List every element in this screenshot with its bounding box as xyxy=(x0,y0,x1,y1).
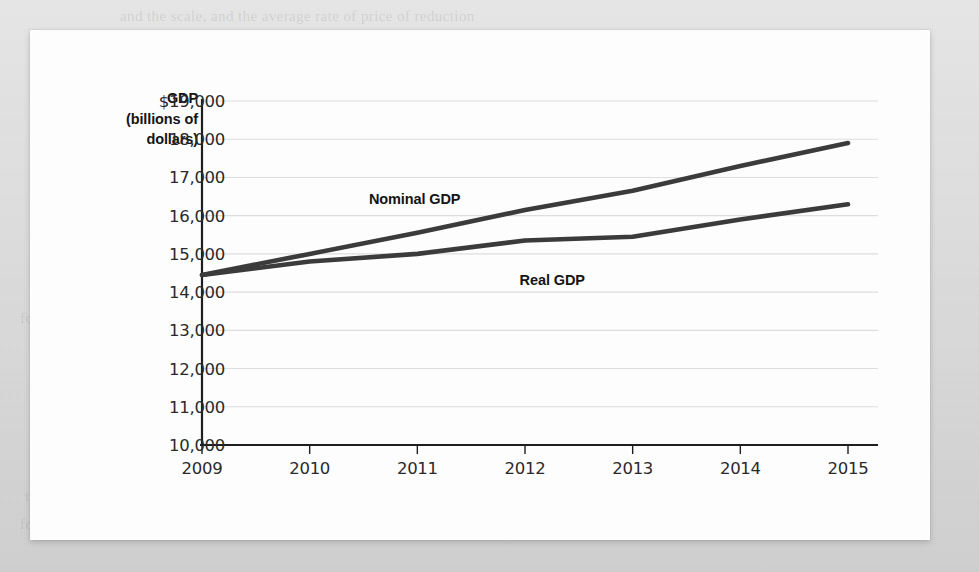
series-label-nominal-gdp: Nominal GDP xyxy=(369,191,461,207)
x-axis-tick-label: 2012 xyxy=(505,459,546,478)
textbook-page: GDP (billions of dollars) $19,00018,0001… xyxy=(30,30,930,540)
x-axis-tick-label: 2009 xyxy=(182,459,223,478)
x-axis-tick-labels: 2009201020112012201320142015 xyxy=(30,30,930,540)
x-axis-tick-label: 2014 xyxy=(720,459,761,478)
screenshot-root: and the scale, and the average rate of p… xyxy=(0,0,979,572)
x-axis-tick-label: 2013 xyxy=(612,459,653,478)
gdp-line-chart: GDP (billions of dollars) $19,00018,0001… xyxy=(30,30,930,540)
series-label-real-gdp: Real GDP xyxy=(520,272,585,288)
x-axis-tick-label: 2011 xyxy=(397,459,438,478)
x-axis-tick-label: 2015 xyxy=(828,459,869,478)
bleed-text-line: and the scale, and the average rate of p… xyxy=(120,8,475,25)
x-axis-tick-label: 2010 xyxy=(289,459,330,478)
